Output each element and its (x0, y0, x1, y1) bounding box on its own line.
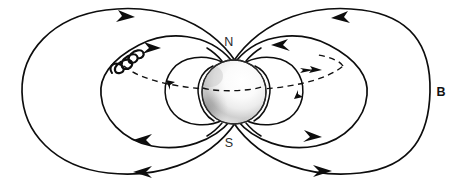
north-pole-label: N (224, 35, 233, 49)
arrow-outer-top-right (331, 11, 350, 23)
south-pole-label: S (225, 136, 234, 150)
arrow-outer-bottom-right (313, 165, 332, 177)
arrow-middle-top-left (142, 42, 161, 54)
arrow-middle-top-right (271, 39, 290, 51)
magnetic-field-label: B (436, 85, 445, 99)
arrow-outer-top-left (116, 10, 135, 22)
dipole-field-diagram: N S B (0, 0, 461, 185)
arrow-middle-bottom-right (303, 130, 322, 142)
magnetic-dipole-figure: N S B (0, 0, 461, 185)
equator-arrow-right (300, 66, 322, 73)
planet-sphere (191, 60, 266, 130)
